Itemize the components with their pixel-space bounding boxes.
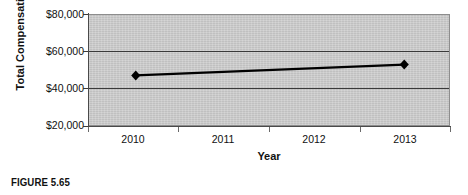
figure-caption: FIGURE 5.65 [11,176,70,188]
data-point-marker-2010 [131,70,140,80]
x-tick-label-2011: 2011 [193,133,253,145]
x-tick-mark-3 [360,127,361,132]
y-axis-line [88,13,89,127]
x-tick-label-2010: 2010 [103,133,163,145]
series-line-segment [136,65,405,76]
y-tick-label-20000: $20,000 [22,119,84,131]
y-axis-tick-labels: $80,000 $60,000 $40,000 $20,000 [22,0,84,195]
y-tick-label-60000: $60,000 [22,45,84,57]
data-point-marker-2013 [400,60,409,70]
x-tick-mark-2 [269,127,270,132]
x-tick-label-2013: 2013 [375,133,435,145]
x-tick-mark-1 [178,127,179,132]
x-tick-mark-start [88,127,89,132]
x-axis-title: Year [88,150,450,162]
series-total-compensation [89,15,449,125]
x-tick-label-2012: 2012 [284,133,344,145]
figure-container: Total Compensation $80,000 $60,000 $40,0… [0,0,468,195]
y-tick-label-80000: $80,000 [22,8,84,20]
plot-area [88,14,450,126]
y-tick-label-40000: $40,000 [22,82,84,94]
x-tick-mark-end [450,127,451,132]
